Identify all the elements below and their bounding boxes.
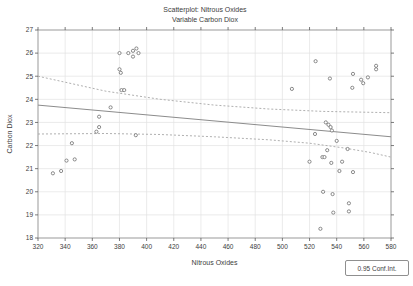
x-tick-label: 340 (60, 243, 71, 250)
legend-box: 0.95 Conf.Int. (345, 260, 409, 276)
data-point (118, 68, 121, 71)
data-point (326, 149, 329, 152)
data-point (323, 156, 326, 159)
x-axis-label: Nitrous Oxides (38, 259, 391, 266)
data-point (118, 52, 121, 55)
data-point (65, 159, 68, 162)
data-point (335, 139, 338, 142)
scatterplot-figure: Scatterplot: Nitrous Oxides Variable Car… (0, 0, 413, 286)
data-point (351, 72, 354, 75)
data-point (346, 147, 349, 150)
y-tick-label: 25 (26, 73, 34, 80)
x-tick-label: 520 (304, 243, 315, 250)
plot-canvas: 3203403603804004204404604805005205405605… (0, 0, 413, 286)
y-tick-label: 24 (26, 96, 34, 103)
data-point (332, 211, 335, 214)
x-tick-label: 480 (250, 243, 261, 250)
data-point (70, 142, 73, 145)
x-tick-label: 380 (114, 243, 125, 250)
y-tick-label: 18 (26, 234, 34, 241)
data-point (314, 60, 317, 63)
data-point (375, 68, 378, 71)
data-point (360, 78, 363, 81)
y-tick-label: 27 (26, 26, 34, 33)
data-point (347, 210, 350, 213)
data-point (366, 76, 369, 79)
data-point (338, 169, 341, 172)
data-point (134, 134, 137, 137)
confidence-band-upper (38, 76, 391, 113)
x-tick-label: 560 (358, 243, 369, 250)
y-tick-label: 26 (26, 49, 34, 56)
data-point (331, 193, 334, 196)
data-point (123, 89, 126, 92)
y-tick-label: 22 (26, 142, 34, 149)
data-point (351, 171, 354, 174)
data-point (319, 227, 322, 230)
data-point (308, 160, 311, 163)
data-point (347, 202, 350, 205)
data-point (328, 77, 331, 80)
data-point (324, 121, 327, 124)
data-point (109, 106, 112, 109)
data-point (131, 49, 134, 52)
x-tick-label: 500 (277, 243, 288, 250)
x-tick-label: 320 (33, 243, 44, 250)
data-point (127, 52, 130, 55)
x-tick-label: 580 (386, 243, 397, 250)
data-point (351, 86, 354, 89)
data-point (51, 172, 54, 175)
y-tick-label: 21 (26, 165, 34, 172)
y-axis-label: Carbon Diox (6, 115, 13, 154)
data-point (135, 47, 138, 50)
data-point (131, 55, 134, 58)
x-tick-label: 440 (195, 243, 206, 250)
data-point (98, 126, 101, 129)
y-tick-label: 19 (26, 211, 34, 218)
data-point (290, 87, 293, 90)
legend-label: 0.95 Conf.Int. (357, 265, 396, 272)
data-point (362, 82, 365, 85)
data-point (98, 115, 101, 118)
data-point (60, 169, 63, 172)
data-point (329, 126, 332, 129)
data-point (375, 64, 378, 67)
data-point (313, 132, 316, 135)
x-tick-label: 400 (141, 243, 152, 250)
data-point (330, 129, 333, 132)
data-point (330, 161, 333, 164)
regression-line (38, 105, 391, 137)
x-tick-label: 420 (168, 243, 179, 250)
data-point (322, 190, 325, 193)
data-point (95, 130, 98, 133)
y-tick-label: 23 (26, 119, 34, 126)
x-tick-label: 460 (223, 243, 234, 250)
x-tick-label: 360 (87, 243, 98, 250)
x-tick-label: 540 (331, 243, 342, 250)
data-point (119, 71, 122, 74)
data-point (137, 52, 140, 55)
data-point (341, 160, 344, 163)
data-point (73, 158, 76, 161)
y-tick-label: 20 (26, 188, 34, 195)
